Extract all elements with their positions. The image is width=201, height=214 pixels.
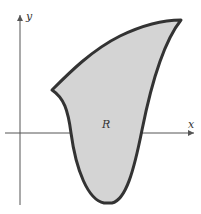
x-axis-label: x: [188, 118, 195, 131]
region-diagram: x y R: [0, 0, 201, 214]
region-label: R: [101, 118, 110, 131]
region-r: [52, 20, 181, 203]
y-axis-label: y: [25, 10, 33, 23]
